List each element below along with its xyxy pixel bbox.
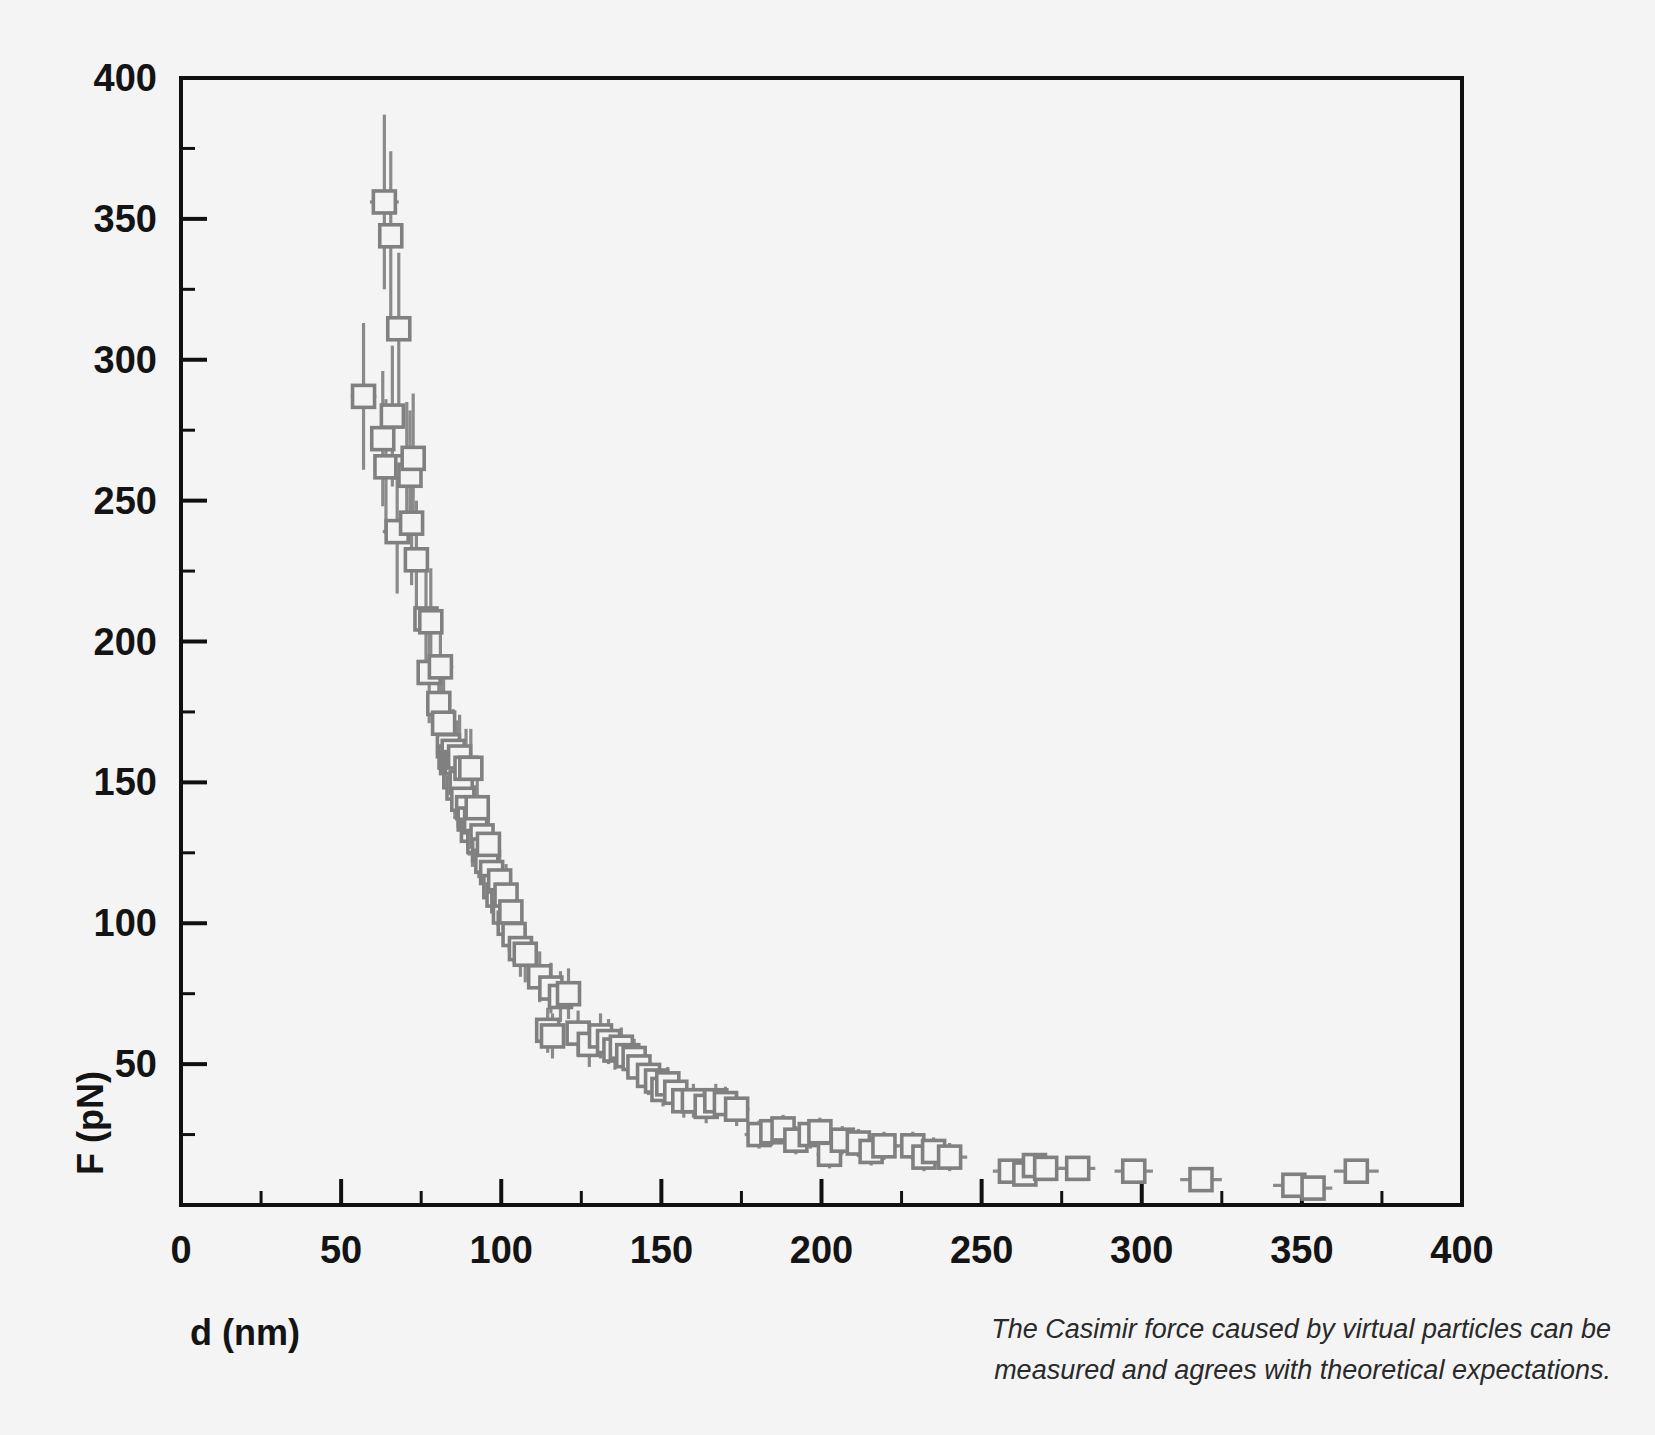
data-point-markers: [353, 191, 1368, 1199]
data-point-marker: [1123, 1160, 1145, 1182]
figure-caption: The Casimir force caused by virtual part…: [991, 1309, 1611, 1391]
y-axis-label: F (pN): [70, 1071, 111, 1175]
casimir-force-scatter-plot: 050100150200250300350400 501001502002503…: [0, 0, 1655, 1435]
y-tick-label-100: 100: [94, 902, 157, 944]
data-point-marker: [541, 1025, 563, 1047]
x-axis-label: d (nm): [190, 1312, 300, 1353]
data-point-marker: [353, 385, 375, 407]
x-tick-label-200: 200: [790, 1229, 853, 1271]
data-point-marker: [420, 611, 442, 633]
plot-frame: [181, 78, 1462, 1205]
data-point-marker: [373, 191, 395, 213]
x-tick-label-300: 300: [1110, 1229, 1173, 1271]
data-point-marker: [1190, 1169, 1212, 1191]
x-tick-label-400: 400: [1430, 1229, 1493, 1271]
data-point-marker: [429, 656, 451, 678]
x-tick-label-0: 0: [170, 1229, 191, 1271]
y-tick-label-300: 300: [94, 339, 157, 381]
data-point-marker: [372, 428, 394, 450]
x-axis-tick-labels: 050100150200250300350400: [170, 1229, 1493, 1271]
x-tick-label-250: 250: [950, 1229, 1013, 1271]
x-tick-label-350: 350: [1270, 1229, 1333, 1271]
data-point-marker: [939, 1146, 961, 1168]
figure-root: 050100150200250300350400 501001502002503…: [0, 0, 1655, 1435]
y-tick-label-250: 250: [94, 480, 157, 522]
data-point-marker: [873, 1135, 895, 1157]
x-tick-label-50: 50: [320, 1229, 362, 1271]
caption-line-1: The Casimir force caused by virtual part…: [991, 1309, 1611, 1350]
data-point-marker: [375, 456, 397, 478]
data-point-marker: [1067, 1157, 1089, 1179]
data-point-marker: [477, 833, 499, 855]
data-point-marker: [1345, 1160, 1367, 1182]
y-tick-label-350: 350: [94, 198, 157, 240]
y-axis-ticks: [181, 78, 207, 1205]
x-tick-label-100: 100: [470, 1229, 533, 1271]
y-axis-tick-labels: 50100150200250300350400: [94, 57, 157, 1085]
y-tick-label-400: 400: [94, 57, 157, 99]
data-point-marker: [1302, 1177, 1324, 1199]
data-point-marker: [402, 447, 424, 469]
caption-line-2: measured and agrees with theoretical exp…: [991, 1350, 1611, 1391]
y-tick-label-150: 150: [94, 761, 157, 803]
x-axis-ticks: [181, 1179, 1462, 1205]
data-point-marker: [1035, 1157, 1057, 1179]
data-point-marker: [558, 983, 580, 1005]
data-error-bars: [351, 115, 1379, 1200]
data-point-marker: [514, 943, 536, 965]
data-point-marker: [433, 712, 455, 734]
data-point-marker: [381, 405, 403, 427]
data-point-marker: [405, 549, 427, 571]
data-point-marker: [401, 512, 423, 534]
x-tick-label-150: 150: [630, 1229, 693, 1271]
data-point-marker: [388, 318, 410, 340]
data-point-marker: [726, 1098, 748, 1120]
data-point-marker: [380, 225, 402, 247]
y-tick-label-50: 50: [115, 1043, 157, 1085]
data-point-marker: [809, 1121, 831, 1143]
y-tick-label-200: 200: [94, 621, 157, 663]
data-point-marker: [500, 901, 522, 923]
data-point-marker: [460, 757, 482, 779]
data-point-marker: [466, 797, 488, 819]
